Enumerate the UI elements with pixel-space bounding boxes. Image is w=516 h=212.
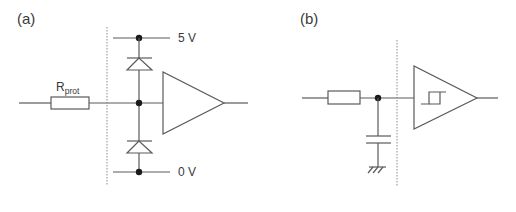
ground-hatch [373,167,378,173]
supply-low-label: 0 V [178,165,196,179]
supply-high-label: 5 V [178,31,196,45]
clamp-diode-high [127,58,152,70]
ground-hatch [378,167,383,173]
diode-triangle [127,141,152,153]
series-resistor [328,91,360,104]
diode-triangle [127,58,152,70]
ground-hatch [368,167,373,173]
panel-a: (a) Rprot 5 V 0 V [17,10,248,185]
panel-a-label: (a) [17,10,35,27]
panel-b-label: (b) [300,10,318,27]
input-buffer-amplifier [163,72,224,134]
resistor-label-main: R [56,80,65,94]
protection-resistor [51,97,89,109]
panel-b: (b) [300,10,498,187]
clamp-diode-low [127,141,152,153]
resistor-label-sub: prot [65,86,80,96]
filter-capacitor [366,98,391,167]
node-input [136,100,142,106]
schmitt-trigger-buffer [414,66,477,129]
ground-icon [368,167,386,173]
node-0v [136,169,142,175]
resistor-label: Rprot [56,80,80,96]
circuit-diagram: (a) Rprot 5 V 0 V [0,0,516,212]
